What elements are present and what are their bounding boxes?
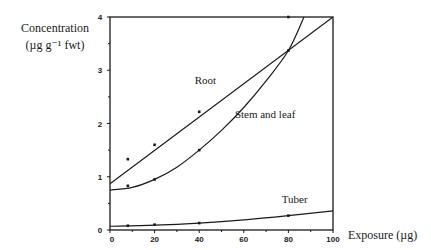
series-label: Root — [195, 74, 216, 86]
series-root: Root — [110, 16, 333, 184]
data-point — [287, 214, 290, 217]
data-point — [127, 158, 130, 161]
data-point — [127, 224, 130, 227]
x-tick-label: 80 — [284, 235, 293, 244]
series-label: Stem and leaf — [235, 108, 296, 120]
axis-ticks: 02040608010001234 — [98, 13, 340, 244]
series-label: Tuber — [282, 193, 308, 205]
series-group: RootStem and leafTuber — [110, 16, 333, 227]
series-stem-and-leaf: Stem and leaf — [110, 17, 304, 190]
fit-line — [110, 17, 333, 184]
y-tick-label: 2 — [98, 120, 103, 129]
series-tuber: Tuber — [110, 193, 333, 227]
data-point — [198, 222, 201, 225]
fit-line — [110, 17, 304, 190]
data-point — [198, 110, 201, 113]
x-tick-label: 60 — [239, 235, 248, 244]
y-axis-label-line1: Concentration — [10, 20, 100, 37]
x-axis-label: Exposure (µg) — [348, 228, 417, 243]
data-point — [287, 49, 290, 52]
data-point — [153, 223, 156, 226]
y-tick-label: 3 — [98, 66, 103, 75]
data-point — [127, 185, 130, 188]
fit-line — [110, 211, 333, 226]
x-tick-label: 100 — [326, 235, 340, 244]
y-tick-label: 0 — [98, 226, 103, 235]
y-axis-label: Concentration (µg g⁻¹ fwt) — [10, 20, 100, 54]
y-axis-label-line2: (µg g⁻¹ fwt) — [10, 37, 100, 54]
x-tick-label: 40 — [195, 235, 204, 244]
x-tick-label: 20 — [150, 235, 159, 244]
data-point — [287, 16, 290, 19]
data-point — [153, 144, 156, 147]
y-tick-label: 1 — [98, 173, 103, 182]
x-tick-label: 0 — [110, 235, 115, 244]
data-point — [153, 178, 156, 181]
data-point — [198, 149, 201, 152]
